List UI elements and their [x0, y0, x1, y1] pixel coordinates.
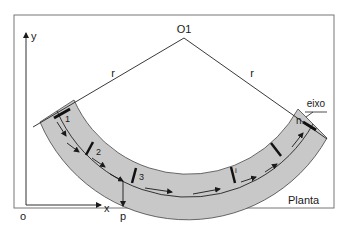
radius-label-right: r: [250, 67, 254, 79]
center-label: O1: [177, 23, 192, 35]
x-axis-label: x: [104, 202, 110, 214]
channel-band: [40, 100, 327, 220]
section-label-2: 2: [96, 147, 101, 157]
axis-label: eixo: [307, 98, 326, 109]
point-label: p: [120, 210, 126, 222]
radius-line-left: [33, 38, 184, 127]
y-axis-label: y: [31, 30, 37, 42]
curved-channel-diagram: O1 r r eixo y x o p 1 2 3 i n Planta: [0, 0, 346, 234]
section-label-i: i: [235, 166, 237, 175]
view-label: Planta: [288, 194, 320, 206]
radius-label-left: r: [111, 67, 115, 79]
section-label-n: n: [296, 115, 302, 126]
origin-label: o: [20, 210, 26, 222]
section-label-3: 3: [139, 172, 144, 182]
eixo-leader-line: [306, 112, 313, 117]
section-label-1: 1: [65, 114, 70, 124]
